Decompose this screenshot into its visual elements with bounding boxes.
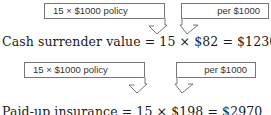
callout-text: 15 × $1000 policy [33,64,108,75]
callout-text: per $1000 [217,5,260,16]
equation-paid-up-insurance: Paid-up insurance = 15 × $198 = $2970 [2,104,262,115]
callout-policy-count: 15 × $1000 policy [44,3,165,19]
arrow-down-icon [171,77,201,95]
callout-per-thousand: per $1000 [176,62,256,78]
callout-text: per $1000 [204,64,247,75]
callout-policy-count: 15 × $1000 policy [24,62,145,78]
callout-text: 15 × $1000 policy [53,5,128,16]
callout-per-thousand: per $1000 [181,3,269,19]
arrow-down-icon [120,77,150,95]
equation-cash-surrender: Cash surrender value = 15 × $82 = $1230 [2,34,271,49]
